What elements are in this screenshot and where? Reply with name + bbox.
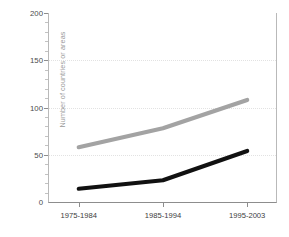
- y-minor-tick: [45, 41, 48, 42]
- series-line-gray: [79, 100, 247, 147]
- y-tick-150: [44, 60, 48, 61]
- y-minor-tick: [45, 136, 48, 137]
- y-minor-tick: [45, 98, 48, 99]
- y-tick-label-200: 200: [30, 9, 43, 18]
- line-chart: 200 150 100 50 0 Number of countries or …: [0, 0, 289, 237]
- y-minor-tick: [45, 89, 48, 90]
- y-minor-tick: [45, 117, 48, 118]
- y-minor-tick: [45, 164, 48, 165]
- y-minor-tick: [45, 174, 48, 175]
- y-minor-tick: [45, 145, 48, 146]
- series-layer: [49, 13, 276, 202]
- series-line-black: [79, 151, 247, 189]
- y-tick-label-0: 0: [39, 198, 43, 207]
- y-minor-tick: [45, 79, 48, 80]
- y-tick-200: [44, 13, 48, 14]
- y-minor-tick: [45, 22, 48, 23]
- x-tick-label-0: 1975-1984: [61, 211, 97, 220]
- y-tick-label-150: 150: [30, 56, 43, 65]
- y-tick-100: [44, 108, 48, 109]
- y-minor-tick: [45, 193, 48, 194]
- y-minor-tick: [45, 51, 48, 52]
- x-tick-2: [247, 202, 248, 207]
- plot-area: 200 150 100 50 0 Number of countries or …: [48, 13, 277, 203]
- y-tick-label-100: 100: [30, 103, 43, 112]
- x-tick-label-2: 1995-2003: [229, 211, 265, 220]
- y-minor-tick: [45, 70, 48, 71]
- y-tick-50: [44, 155, 48, 156]
- y-minor-tick: [45, 32, 48, 33]
- y-minor-tick: [45, 126, 48, 127]
- x-tick-0: [79, 202, 80, 207]
- x-tick-label-1: 1985-1994: [145, 211, 181, 220]
- x-tick-1: [163, 202, 164, 207]
- y-tick-label-50: 50: [34, 150, 43, 159]
- y-minor-tick: [45, 183, 48, 184]
